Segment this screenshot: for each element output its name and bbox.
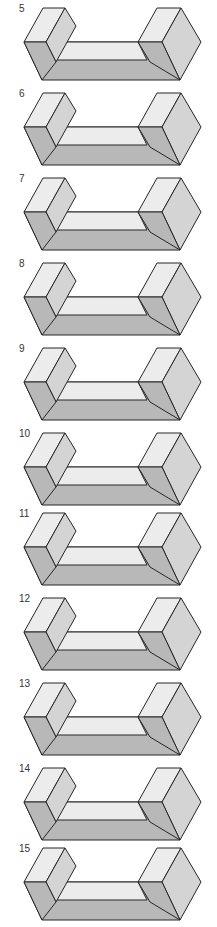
- isometric-shape: [0, 425, 217, 509]
- puzzle-figure: 10: [0, 425, 217, 509]
- isometric-shape: [0, 675, 217, 759]
- isometric-shape: [0, 85, 217, 169]
- puzzle-figure: 6: [0, 85, 217, 169]
- isometric-shape: [0, 505, 217, 589]
- isometric-shape: [0, 590, 217, 674]
- puzzle-figure: 14: [0, 760, 217, 844]
- puzzle-figure: 11: [0, 505, 217, 589]
- puzzle-figure: 12: [0, 590, 217, 674]
- isometric-shape: [0, 340, 217, 424]
- puzzle-figure: 15: [0, 840, 217, 924]
- isometric-shape: [0, 170, 217, 254]
- puzzle-figure: 5: [0, 0, 217, 84]
- isometric-shape: [0, 840, 217, 924]
- puzzle-figure: 8: [0, 255, 217, 339]
- isometric-shape: [0, 255, 217, 339]
- isometric-shape: [0, 0, 217, 84]
- puzzle-figure: 9: [0, 340, 217, 424]
- puzzle-figure: 13: [0, 675, 217, 759]
- isometric-shape: [0, 760, 217, 844]
- puzzle-figure: 7: [0, 170, 217, 254]
